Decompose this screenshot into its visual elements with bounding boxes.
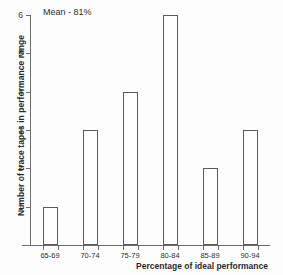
bar	[123, 92, 138, 245]
x-axis-tick	[243, 245, 244, 250]
y-axis-tick-label: 4	[10, 88, 23, 97]
x-axis-tick-label: 70-74	[70, 251, 110, 260]
y-axis-tick-label: 2	[10, 164, 23, 173]
x-axis-tick	[258, 245, 259, 250]
y-axis-tick	[26, 130, 30, 131]
y-axis-tick	[26, 92, 30, 93]
y-axis-tick-label: 3	[10, 126, 23, 135]
x-axis-tick	[43, 245, 44, 250]
chart-figure: Number of trace tapes in performance ran…	[0, 0, 283, 275]
x-axis-line	[22, 245, 270, 246]
x-axis-tick	[123, 245, 124, 250]
plot-area: 12345665-6970-7475-7980-8485-8990-94	[30, 15, 270, 245]
y-axis-tick	[26, 53, 30, 54]
bar	[83, 130, 98, 245]
y-axis-tick-label: 6	[10, 11, 23, 20]
y-axis-line	[30, 15, 31, 245]
x-axis-tick-label: 75-79	[110, 251, 150, 260]
x-axis-tick	[178, 245, 179, 250]
bar	[43, 207, 58, 245]
x-axis-tick-label: 65-69	[30, 251, 70, 260]
x-axis-tick	[203, 245, 204, 250]
bar	[243, 130, 258, 245]
y-axis-tick	[26, 168, 30, 169]
x-axis-tick	[138, 245, 139, 250]
x-axis-tick	[83, 245, 84, 250]
y-axis-tick	[26, 15, 30, 16]
x-axis-tick-label: 90-94	[230, 251, 270, 260]
x-axis-tick-label: 80-84	[150, 251, 190, 260]
x-axis-tick	[98, 245, 99, 250]
x-axis-title: Percentage of ideal performance	[123, 261, 281, 271]
y-axis-tick-label: 5	[10, 49, 23, 58]
bar	[163, 15, 178, 245]
y-axis-tick	[26, 207, 30, 208]
bar	[203, 168, 218, 245]
x-axis-tick	[58, 245, 59, 250]
mean-annotation: Mean - 81%	[43, 7, 92, 17]
x-axis-tick	[218, 245, 219, 250]
y-axis-tick-label: 1	[10, 203, 23, 212]
x-axis-tick-label: 85-89	[190, 251, 230, 260]
x-axis-tick	[163, 245, 164, 250]
